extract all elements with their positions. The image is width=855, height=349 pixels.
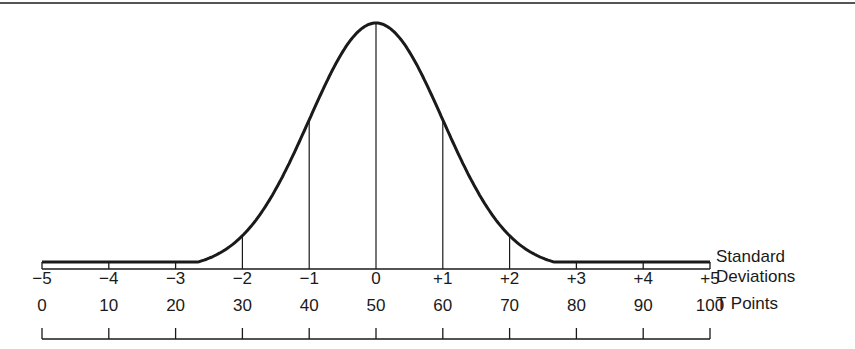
sd-tick-label: +2 [500, 270, 519, 288]
sd-tick-label: +3 [567, 270, 586, 288]
sd-tick-label: −1 [299, 270, 318, 288]
t-tick-label: 90 [634, 297, 653, 315]
sd-axis-title-line2: Deviations [716, 268, 795, 286]
sd-tick-label: +4 [633, 270, 652, 288]
t-tick-label: 50 [367, 297, 386, 315]
sd-tick-label: −5 [32, 270, 51, 288]
t-tick-label: 70 [500, 297, 519, 315]
t-tick-label: 30 [233, 297, 252, 315]
sd-tick-label: +1 [433, 270, 452, 288]
t-tick-label: 10 [99, 297, 118, 315]
sd-tick-label: −2 [233, 270, 252, 288]
t-tick-label: 80 [567, 297, 586, 315]
plot-area [42, 23, 710, 339]
sd-tick-label: 0 [371, 270, 380, 288]
t-tick-label: 60 [433, 297, 452, 315]
t-tick-label: 40 [300, 297, 319, 315]
t-tick-label: 0 [37, 297, 46, 315]
t-tick-label: 20 [166, 297, 185, 315]
sd-tick-label: −3 [166, 270, 185, 288]
sd-tick-label: −4 [99, 270, 118, 288]
sd-axis-title-line1: Standard [716, 248, 785, 266]
t-axis-title: T Points [716, 295, 778, 313]
